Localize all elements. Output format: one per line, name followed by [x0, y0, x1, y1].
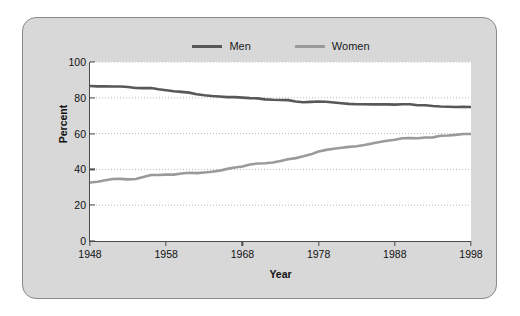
y-tick: 20: [74, 200, 90, 210]
y-tick-mark: [90, 205, 95, 206]
x-tick-mark: [89, 241, 90, 246]
y-tick: 40: [74, 164, 90, 174]
y-tick-mark: [90, 61, 95, 62]
y-tick-label: 20: [74, 199, 90, 211]
x-tick: 1998: [459, 241, 482, 260]
x-tick-label: 1968: [231, 248, 254, 260]
x-tick: 1958: [155, 241, 178, 260]
legend-label-men: Men: [229, 41, 250, 52]
x-tick-label: 1998: [459, 248, 482, 260]
x-tick-mark: [470, 241, 471, 246]
legend-item-women: Women: [295, 41, 370, 52]
x-tick-mark: [318, 241, 319, 246]
legend-label-women: Women: [332, 41, 370, 52]
x-axis-title: Year: [90, 268, 471, 280]
y-tick-label: 80: [74, 92, 90, 104]
y-tick-mark: [90, 169, 95, 170]
chart-legend: Men Women: [90, 38, 472, 54]
series-line-women: [90, 134, 471, 183]
x-tick-label: 1948: [78, 248, 101, 260]
x-tick: 1948: [78, 241, 101, 260]
y-tick: 80: [74, 93, 90, 103]
series-line-men: [90, 86, 471, 107]
legend-swatch-women: [295, 45, 325, 48]
x-tick-mark: [242, 241, 243, 246]
y-tick: 60: [74, 129, 90, 139]
x-tick-mark: [394, 241, 395, 246]
x-tick-label: 1988: [383, 248, 406, 260]
x-tick-mark: [166, 241, 167, 246]
chart-canvas: [90, 62, 471, 241]
y-tick-mark: [90, 133, 95, 134]
x-tick: 1988: [383, 241, 406, 260]
y-tick-label: 100: [68, 56, 90, 68]
legend-item-men: Men: [192, 41, 250, 52]
y-tick: 100: [68, 57, 90, 67]
x-tick-label: 1978: [307, 248, 330, 260]
x-tick: 1978: [307, 241, 330, 260]
x-tick: 1968: [231, 241, 254, 260]
y-tick-label: 60: [74, 128, 90, 140]
plot-area: 020406080100 194819581968197819881998: [90, 62, 471, 241]
y-tick-label: 40: [74, 163, 90, 175]
y-tick-mark: [90, 97, 95, 98]
y-axis-line: [89, 62, 90, 241]
legend-swatch-men: [192, 45, 222, 48]
y-axis-title: Percent: [57, 105, 69, 144]
x-tick-label: 1958: [155, 248, 178, 260]
chart-screenshot: Men Women 020406080100 19481958196819781…: [0, 0, 520, 316]
x-axis-line: [89, 241, 471, 242]
